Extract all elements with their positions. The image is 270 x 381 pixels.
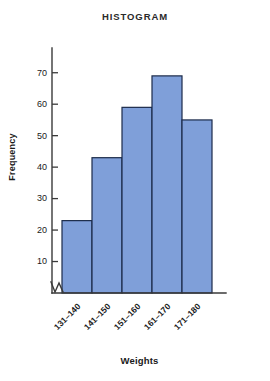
histogram-bar — [62, 221, 92, 293]
y-tick-label: 60 — [37, 99, 47, 109]
y-axis-ticks: 10203040506070 — [37, 68, 58, 267]
axis-break-icon — [51, 282, 63, 292]
y-tick-label: 20 — [37, 225, 47, 235]
histogram-bar — [152, 76, 182, 293]
histogram-bar — [92, 158, 122, 293]
y-tick-label: 10 — [37, 256, 47, 266]
plot-area: 10203040506070 131–140141–150151–160161–… — [0, 0, 270, 381]
y-tick-label: 30 — [37, 193, 47, 203]
x-tick-label: 171–180 — [172, 301, 203, 332]
y-tick-label: 50 — [37, 131, 47, 141]
y-tick-label: 40 — [37, 162, 47, 172]
histogram-bar — [182, 120, 212, 293]
x-tick-label: 131–140 — [52, 301, 83, 332]
x-tick-label: 151–160 — [112, 301, 143, 332]
x-axis-tick-labels: 131–140141–150151–160161–170171–180 — [52, 301, 203, 332]
x-tick-label: 141–150 — [82, 301, 113, 332]
y-tick-label: 70 — [37, 68, 47, 78]
histogram-bar — [122, 107, 152, 293]
x-tick-label: 161–170 — [142, 301, 173, 332]
histogram-chart: HISTOGRAM Frequency Weights 102030405060… — [0, 0, 270, 381]
bars-group — [62, 76, 212, 293]
